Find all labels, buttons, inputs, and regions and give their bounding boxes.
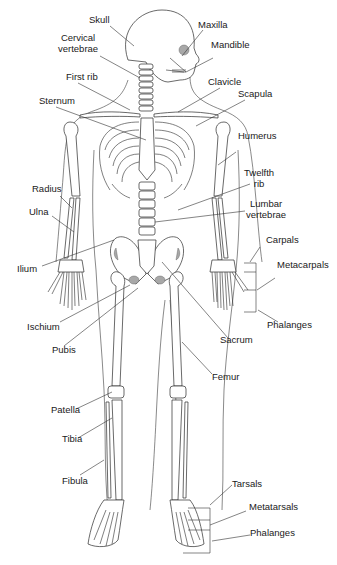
label-lumbar-line1: Lumbar [246,199,286,210]
label-sacrum: Sacrum [220,335,253,346]
label-metatarsals: Metatarsals [249,502,298,513]
label-lumbar-line2: vertebrae [246,210,286,221]
femurs [111,272,183,386]
label-tarsals: Tarsals [232,479,262,490]
skeleton-diagram: Skull Cervical vertebrae First rib Stern… [0,0,337,565]
label-mandible: Mandible [211,40,250,51]
cervical-vertebrae [139,64,153,111]
patellae [108,386,186,398]
label-cervical-line1: Cervical [58,33,98,44]
label-first-rib: First rib [66,72,98,83]
label-ischium: Ischium [27,322,60,333]
label-radius: Radius [32,184,62,195]
label-ulna: Ulna [29,207,49,218]
label-sternum: Sternum [39,96,75,107]
label-femur: Femur [212,372,239,383]
label-humerus: Humerus [238,131,277,142]
feet [88,500,204,547]
label-cervical-line2: vertebrae [58,44,98,55]
label-pubis: Pubis [52,345,76,356]
label-skull: Skull [89,15,110,26]
label-twelfth-rib-line2: rib [244,179,274,190]
label-scapula: Scapula [238,89,272,100]
label-phalanges-hand: Phalanges [267,320,312,331]
label-metacarpals: Metacarpals [277,260,329,271]
label-maxilla: Maxilla [198,20,228,31]
label-patella: Patella [51,405,80,416]
lumbar-vertebrae [139,182,155,235]
label-ilium: Ilium [17,264,37,275]
label-twelfth-rib: Twelfth rib [244,168,274,189]
label-lumbar-vertebrae: Lumbar vertebrae [246,199,286,220]
lower-leg-bones [106,400,188,500]
clavicles [80,112,218,118]
label-cervical-vertebrae: Cervical vertebrae [58,33,98,54]
label-tibia: Tibia [62,434,82,445]
body-outline [56,76,262,510]
label-clavicle: Clavicle [208,77,241,88]
label-carpals: Carpals [266,235,299,246]
label-fibula: Fibula [62,476,88,487]
label-twelfth-rib-line1: Twelfth [244,168,274,179]
label-phalanges-foot: Phalanges [250,528,295,539]
skeleton-figure [0,0,337,565]
